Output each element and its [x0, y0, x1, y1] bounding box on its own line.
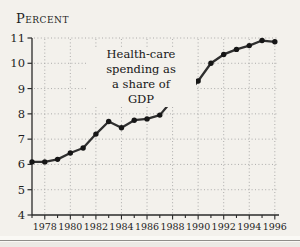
x-tick-label: 1994	[237, 221, 261, 232]
data-point	[144, 116, 149, 121]
y-tick-label: 6	[18, 157, 25, 171]
x-tick-label: 1986	[135, 221, 159, 232]
data-point	[234, 47, 239, 52]
data-point	[68, 150, 73, 155]
x-tick-label: 1980	[58, 221, 82, 232]
data-point	[29, 159, 34, 164]
chart-figure: Percent 45678910111978198019821984198619…	[0, 0, 300, 247]
x-tick-label: 1992	[212, 221, 236, 232]
data-point	[208, 61, 213, 66]
y-tick-label: 9	[18, 82, 25, 96]
data-point	[259, 38, 264, 43]
x-tick-label: 1988	[160, 221, 184, 232]
page-edge-rule	[0, 240, 300, 241]
x-tick-label: 1996	[263, 221, 287, 232]
data-point	[55, 157, 60, 162]
data-point	[132, 117, 137, 122]
y-tick-label: 8	[18, 107, 25, 121]
x-tick-label: 1990	[186, 221, 210, 232]
x-tick-label: 1978	[33, 221, 57, 232]
data-point	[221, 52, 226, 57]
x-tick-label: 1984	[109, 221, 133, 232]
annotation-line: GDP	[86, 92, 196, 107]
data-point	[106, 119, 111, 124]
data-point	[247, 43, 252, 48]
data-point	[119, 125, 124, 130]
y-tick-label: 7	[18, 132, 25, 146]
annotation-line: a share of	[86, 77, 196, 92]
annotation-line: Health-care	[86, 47, 196, 62]
x-tick-label: 1982	[84, 221, 108, 232]
data-point	[272, 39, 277, 44]
y-tick-label: 11	[10, 31, 25, 45]
page-edge-below	[0, 242, 300, 247]
data-point	[42, 159, 47, 164]
chart-plot: 4567891011197819801982198419861988199019…	[0, 0, 300, 247]
y-tick-label: 4	[18, 208, 25, 222]
data-point	[93, 131, 98, 136]
annotation-line: spending as	[86, 62, 196, 77]
data-point	[195, 78, 200, 83]
chart-annotation: Health-care spending as a share of GDP	[86, 47, 196, 107]
y-tick-label: 5	[18, 183, 25, 197]
data-point	[80, 145, 85, 150]
data-point	[157, 112, 162, 117]
y-tick-label: 10	[10, 56, 25, 70]
